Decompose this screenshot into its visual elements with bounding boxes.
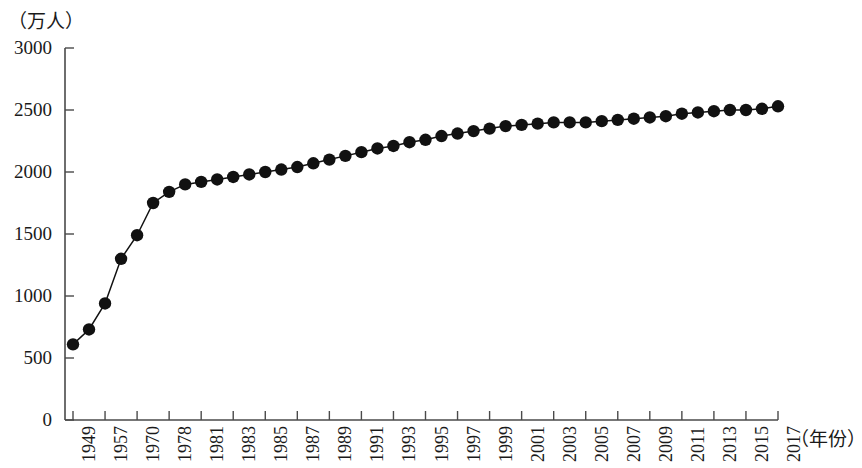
data-point-marker [531,117,543,129]
data-point-marker [596,115,608,127]
data-point-marker [708,105,720,117]
data-point-marker [515,119,527,131]
data-point-marker [259,166,271,178]
data-point-marker [676,108,688,120]
data-point-marker [179,178,191,190]
data-point-marker [355,146,367,158]
data-point-marker [772,100,784,112]
data-point-marker [307,157,319,169]
data-point-marker [451,127,463,139]
data-point-marker [291,161,303,173]
data-point-marker [644,111,656,123]
data-point-marker [67,338,79,350]
data-point-marker [387,140,399,152]
data-point-marker [99,297,111,309]
data-point-marker [339,150,351,162]
plot-area [0,0,862,468]
data-point-marker [435,130,447,142]
data-point-marker [612,114,624,126]
data-point-marker [195,176,207,188]
data-point-marker [483,122,495,134]
data-point-marker [323,153,335,165]
population-line-chart: （万人） （年份） 050010001500200025003000 19491… [0,0,862,468]
data-series-layer [67,100,784,350]
axes-lines [65,48,778,420]
data-point-marker [131,229,143,241]
data-point-marker [115,253,127,265]
data-point-marker [724,104,736,116]
data-point-marker [83,323,95,335]
data-point-marker [660,110,672,122]
data-point-marker [628,112,640,124]
data-point-marker [499,120,511,132]
data-point-marker [467,125,479,137]
data-point-marker [419,134,431,146]
data-point-marker [580,116,592,128]
data-point-marker [275,163,287,175]
data-point-marker [547,116,559,128]
data-point-marker [243,168,255,180]
data-point-marker [371,142,383,154]
data-point-marker [740,104,752,116]
data-point-marker [147,197,159,209]
data-point-marker [211,173,223,185]
data-point-marker [227,171,239,183]
data-point-marker [403,136,415,148]
data-point-marker [692,106,704,118]
data-point-marker [756,103,768,115]
data-point-marker [564,116,576,128]
data-point-marker [163,186,175,198]
